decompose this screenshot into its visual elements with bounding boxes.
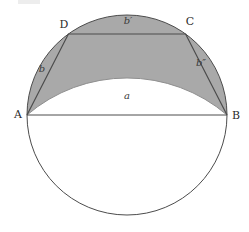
diagram-canvas: A B D C b b′ b″ a bbox=[0, 0, 249, 232]
side-label-b-double-prime: b″ bbox=[196, 57, 206, 68]
scan-artifact bbox=[18, 0, 40, 4]
vertex-label-c: C bbox=[186, 15, 194, 28]
side-label-b-prime: b′ bbox=[124, 15, 133, 26]
vertex-label-d: D bbox=[60, 18, 69, 31]
side-label-b: b bbox=[39, 63, 45, 74]
vertex-label-b: B bbox=[232, 109, 240, 122]
geometry-diagram: A B D C b b′ b″ a bbox=[0, 0, 249, 232]
vertex-label-a: A bbox=[13, 108, 23, 121]
side-label-a: a bbox=[124, 90, 130, 101]
